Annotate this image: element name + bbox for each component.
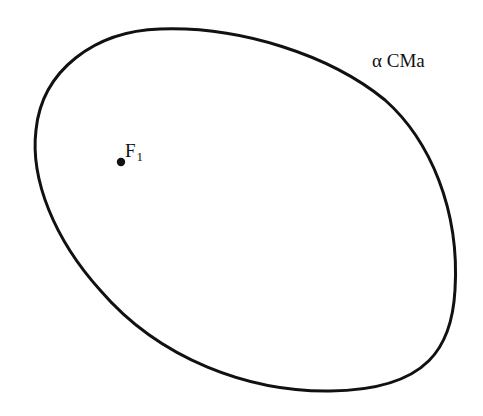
star-label: α CMa [372,50,425,72]
focus-subscript: 1 [137,149,144,164]
focus-point [117,158,125,166]
focus-letter: F [125,140,136,161]
orbit-ellipse [35,29,455,391]
focus-label: F1 [125,140,143,165]
